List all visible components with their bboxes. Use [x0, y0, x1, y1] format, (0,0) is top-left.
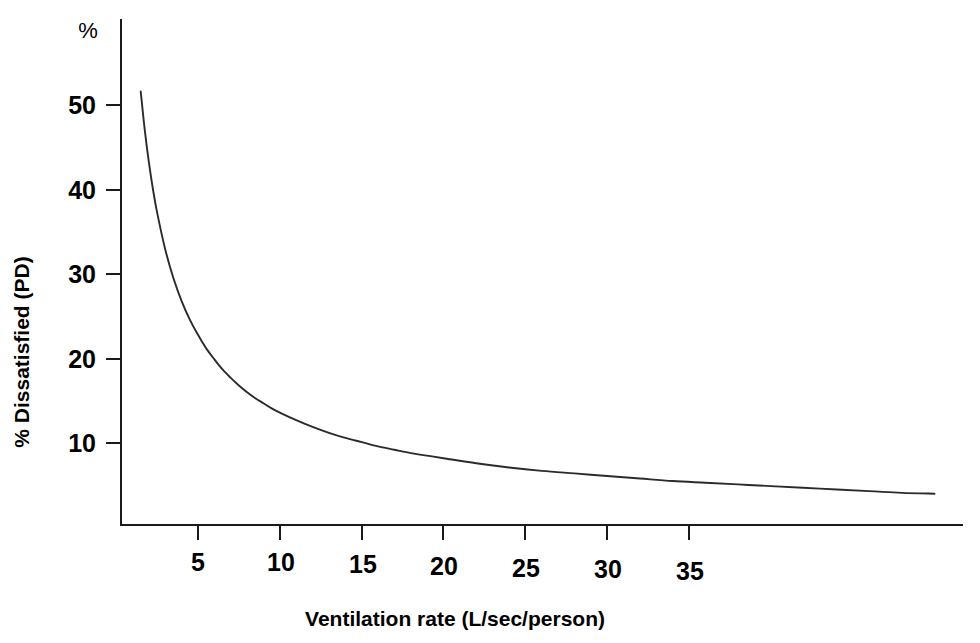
y-tick-label-10: 10 [68, 429, 96, 457]
y-tick-label-40: 40 [68, 176, 96, 204]
x-axis-title: Ventilation rate (L/sec/person) [305, 607, 605, 630]
y-tick-label-20: 20 [68, 345, 96, 373]
chart-svg: 50 40 30 20 10 % 5 10 15 20 25 30 35 [0, 0, 980, 643]
y-axis-title: % Dissatisfied (PD) [10, 256, 33, 447]
chart-figure: 50 40 30 20 10 % 5 10 15 20 25 30 35 [0, 0, 980, 643]
x-tick-label-5: 5 [191, 548, 205, 576]
y-tick-label-30: 30 [68, 260, 96, 288]
y-axis-unit-label: % [78, 18, 98, 43]
chart-background [0, 0, 980, 643]
x-tick-label-25: 25 [512, 554, 540, 582]
x-tick-label-15: 15 [349, 550, 377, 578]
x-tick-label-35: 35 [676, 557, 704, 585]
x-tick-label-10: 10 [267, 548, 295, 576]
y-tick-label-50: 50 [68, 91, 96, 119]
x-tick-label-30: 30 [594, 555, 622, 583]
x-tick-label-20: 20 [430, 552, 458, 580]
